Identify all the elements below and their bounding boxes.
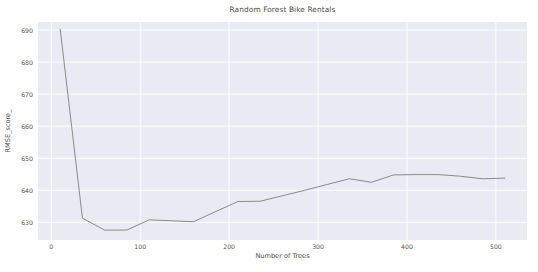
y-tick-label: 670 — [21, 91, 33, 98]
plot-svg — [38, 22, 527, 240]
x-tick-label: 300 — [312, 243, 324, 250]
chart-figure: Random Forest Bike Rentals 6306406506606… — [0, 0, 538, 272]
x-tick-label: 200 — [223, 243, 235, 250]
x-tick-label: 0 — [49, 243, 53, 250]
x-axis-label: Number of Trees — [38, 252, 527, 260]
y-axis-label: RMSE_score_ — [4, 110, 12, 153]
chart-title: Random Forest Bike Rentals — [38, 5, 527, 14]
y-tick-label: 630 — [21, 219, 33, 226]
x-tick-label: 400 — [401, 243, 413, 250]
data-line — [60, 29, 505, 230]
y-tick-label: 690 — [21, 27, 33, 34]
y-tick-label: 660 — [21, 123, 33, 130]
data-series-group — [60, 29, 505, 230]
plot-area — [38, 22, 527, 240]
x-tick-label: 500 — [490, 243, 502, 250]
vertical-gridlines — [51, 22, 496, 240]
y-tick-label: 680 — [21, 59, 33, 66]
horizontal-gridlines — [38, 30, 527, 222]
y-tick-label: 650 — [21, 155, 33, 162]
y-tick-label: 640 — [21, 187, 33, 194]
x-tick-label: 100 — [134, 243, 146, 250]
